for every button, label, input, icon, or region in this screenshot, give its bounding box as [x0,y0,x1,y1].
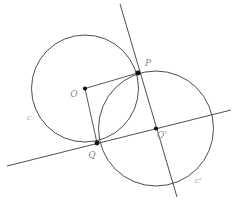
circle-c-label: c [27,113,32,122]
point-q-dot [95,141,100,146]
geometry-diagram: O O' P Q c c' [0,0,234,210]
segment-oq [85,89,97,144]
point-o-dot [83,86,87,90]
point-p-label: P [144,58,152,68]
point-q-label: Q [88,150,96,160]
radical-axis-line [120,4,177,197]
circle-c-prime-label: c' [195,176,202,185]
point-o-label: O [70,89,78,99]
segment-op [85,73,138,89]
point-o-prime-label: O' [157,130,167,140]
diagram-canvas: O O' P Q c c' [0,0,234,210]
point-p-dot [136,71,141,76]
